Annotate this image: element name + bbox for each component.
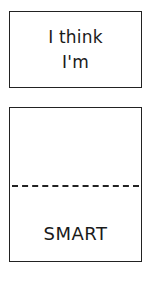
fold-dashed-line <box>12 185 139 187</box>
top-panel: I think I'm <box>9 11 142 88</box>
top-panel-line-2: I'm <box>62 50 89 75</box>
bottom-panel: SMART <box>9 107 142 262</box>
answer-text: SMART <box>10 223 141 244</box>
top-panel-line-1: I think <box>48 25 103 50</box>
